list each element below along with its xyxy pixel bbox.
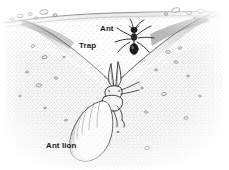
antlion-trap-figure: Ant Trap Ant lion	[0, 0, 229, 170]
sand-mass	[0, 0, 228, 170]
figure-illustration	[0, 0, 229, 170]
label-ant: Ant	[100, 24, 114, 33]
label-ant-lion: Ant lion	[46, 141, 77, 150]
antlion-eye-left	[108, 90, 110, 92]
label-trap: Trap	[79, 41, 96, 50]
antlion-eye-right	[118, 90, 120, 92]
ant-abdomen-highlight	[131, 45, 133, 49]
ant-thorax	[131, 33, 137, 40]
ant-abdomen	[130, 44, 138, 55]
